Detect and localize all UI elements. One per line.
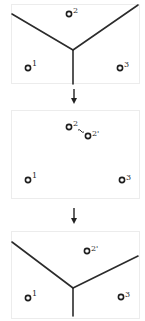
site-2-prime-icon bbox=[84, 248, 89, 253]
site-1-label: 1 bbox=[32, 289, 37, 298]
site-2-icon bbox=[66, 11, 71, 16]
move-link bbox=[78, 130, 84, 133]
site-1-icon bbox=[25, 295, 30, 300]
site-1-icon bbox=[25, 65, 30, 70]
down-arrow-icon bbox=[71, 89, 77, 104]
panel-frame bbox=[12, 232, 140, 319]
site-2-prime-label: 2' bbox=[92, 129, 99, 138]
site-1-icon bbox=[25, 177, 30, 182]
site-3-label: 3 bbox=[124, 60, 129, 69]
site-3-label: 3 bbox=[126, 173, 131, 182]
voronoi-edge-1-2p bbox=[12, 242, 73, 288]
panel-updated: 2' 1 3 bbox=[12, 232, 140, 319]
site-3-icon bbox=[118, 294, 123, 299]
site-2-icon bbox=[66, 124, 71, 129]
site-2-prime-label: 2' bbox=[91, 244, 98, 253]
panel-move: 2 2' 1 3 bbox=[12, 111, 140, 199]
site-3-icon bbox=[117, 65, 122, 70]
site-2-label: 2 bbox=[73, 119, 78, 128]
site-3-label: 3 bbox=[125, 290, 130, 299]
site-2-prime-icon bbox=[85, 133, 90, 138]
site-2-label: 2 bbox=[73, 6, 78, 15]
site-1-label: 1 bbox=[32, 171, 37, 180]
down-arrow-icon bbox=[71, 208, 77, 224]
voronoi-edge-2-3 bbox=[73, 5, 138, 50]
site-3-icon bbox=[119, 177, 124, 182]
panel-initial: 2 1 3 bbox=[12, 5, 140, 85]
voronoi-update-diagram: 2 1 3 2 2' 1 3 2' 1 bbox=[0, 0, 145, 321]
site-1-label: 1 bbox=[32, 59, 37, 68]
voronoi-edge-2p-3 bbox=[73, 256, 138, 288]
voronoi-edge-1-2 bbox=[12, 14, 73, 50]
